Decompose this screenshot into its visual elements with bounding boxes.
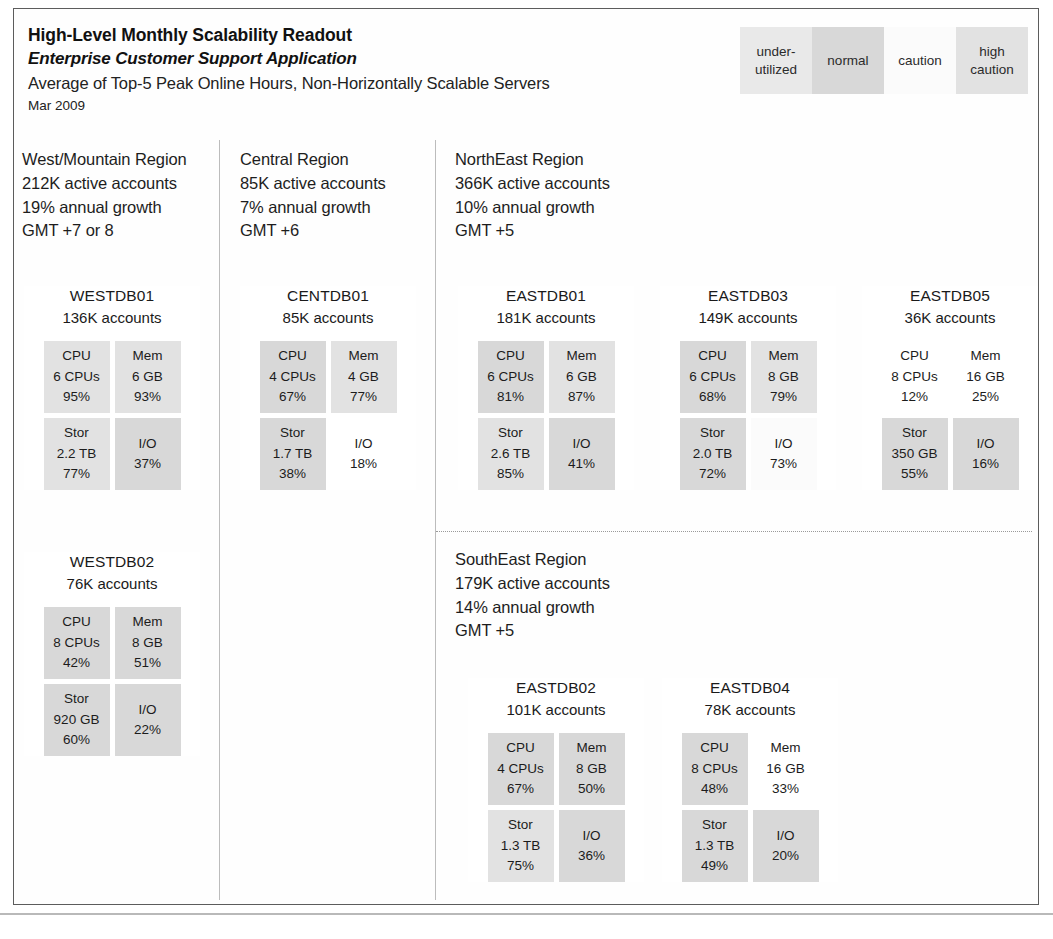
metric-cell-stor[interactable]: Stor920 GB60% xyxy=(44,684,110,756)
region-growth: 10% annual growth xyxy=(455,196,610,220)
legend-swatch-under-utilized: under-utilized xyxy=(740,27,812,94)
server-card-eastdb04[interactable]: EASTDB0478K accountsCPU8 CPUs48%Mem16 GB… xyxy=(662,678,838,882)
metric-cell-mem[interactable]: Mem8 GB79% xyxy=(751,341,817,413)
metric-cell-cpu[interactable]: CPU8 CPUs42% xyxy=(44,607,110,679)
metric-cell-cpu[interactable]: CPU8 CPUs48% xyxy=(682,733,748,805)
metric-percent: 41% xyxy=(568,454,595,475)
metric-capacity: 8 CPUs xyxy=(891,367,938,388)
metric-cell-io[interactable]: I/O22% xyxy=(115,684,181,756)
metric-cell-stor[interactable]: Stor1.3 TB75% xyxy=(488,810,554,882)
metric-label: Mem xyxy=(349,346,379,367)
metric-label: Mem xyxy=(133,346,163,367)
metric-cell-stor[interactable]: Stor350 GB55% xyxy=(882,418,948,490)
metric-cell-cpu[interactable]: CPU4 CPUs67% xyxy=(488,733,554,805)
metric-cell-mem[interactable]: Mem4 GB77% xyxy=(331,341,397,413)
metric-label: I/O xyxy=(572,434,590,455)
metric-cell-stor[interactable]: Stor1.7 TB38% xyxy=(260,418,326,490)
metric-cell-cpu[interactable]: CPU4 CPUs67% xyxy=(260,341,326,413)
metric-cell-mem[interactable]: Mem6 GB93% xyxy=(115,341,181,413)
metric-grid: CPU6 CPUs68%Mem8 GB79%Stor2.0 TB72%I/O73… xyxy=(660,341,836,490)
metric-cell-mem[interactable]: Mem16 GB25% xyxy=(953,341,1019,413)
legend-swatch-high-caution: high caution xyxy=(956,27,1028,94)
legend-label: under-utilized xyxy=(740,43,812,78)
metric-cell-mem[interactable]: Mem16 GB33% xyxy=(753,733,819,805)
metric-grid: CPU8 CPUs48%Mem16 GB33%Stor1.3 TB49%I/O2… xyxy=(662,733,838,882)
metric-cell-io[interactable]: I/O18% xyxy=(331,418,397,490)
metric-capacity: 6 CPUs xyxy=(689,367,736,388)
metric-capacity: 8 GB xyxy=(768,367,799,388)
legend-label: caution xyxy=(898,52,942,69)
metric-label: I/O xyxy=(774,434,792,455)
region-name: West/Mountain Region xyxy=(22,148,187,172)
region-name: SouthEast Region xyxy=(455,548,610,572)
metric-label: Mem xyxy=(133,612,163,633)
region-header-west: West/Mountain Region 212K active account… xyxy=(22,148,187,243)
metric-capacity: 6 GB xyxy=(566,367,597,388)
region-accounts: 212K active accounts xyxy=(22,172,187,196)
metric-label: Stor xyxy=(702,815,727,836)
page-title: High-Level Monthly Scalability Readout xyxy=(28,24,718,47)
metric-cell-stor[interactable]: Stor2.6 TB85% xyxy=(478,418,544,490)
metric-label: Mem xyxy=(971,346,1001,367)
metric-percent: 77% xyxy=(350,387,377,408)
report-subtitle: Enterprise Customer Support Application xyxy=(28,47,718,70)
page-bottom-rule xyxy=(0,913,1053,915)
metric-percent: 68% xyxy=(699,387,726,408)
server-name: WESTDB02 xyxy=(24,552,200,573)
metric-capacity: 350 GB xyxy=(892,444,938,465)
metric-cell-cpu[interactable]: CPU6 CPUs95% xyxy=(44,341,110,413)
metric-label: CPU xyxy=(506,738,535,759)
server-name: EASTDB02 xyxy=(468,678,644,699)
metric-label: I/O xyxy=(976,434,994,455)
metric-cell-io[interactable]: I/O20% xyxy=(753,810,819,882)
metric-capacity: 920 GB xyxy=(54,710,100,731)
metric-percent: 87% xyxy=(568,387,595,408)
metric-grid: CPU6 CPUs81%Mem6 GB87%Stor2.6 TB85%I/O41… xyxy=(458,341,634,490)
metric-label: Stor xyxy=(280,423,305,444)
server-name: EASTDB04 xyxy=(662,678,838,699)
metric-percent: 55% xyxy=(901,464,928,485)
metric-label: I/O xyxy=(354,434,372,455)
server-card-westdb02[interactable]: WESTDB0276K accountsCPU8 CPUs42%Mem8 GB5… xyxy=(24,552,200,756)
metric-cell-mem[interactable]: Mem6 GB87% xyxy=(549,341,615,413)
metric-label: Mem xyxy=(769,346,799,367)
metric-cell-cpu[interactable]: CPU8 CPUs12% xyxy=(882,341,948,413)
metric-capacity: 6 GB xyxy=(132,367,163,388)
server-accounts: 101K accounts xyxy=(468,700,644,720)
metric-cell-stor[interactable]: Stor2.2 TB77% xyxy=(44,418,110,490)
metric-cell-io[interactable]: I/O36% xyxy=(559,810,625,882)
metric-percent: 95% xyxy=(63,387,90,408)
metric-capacity: 16 GB xyxy=(966,367,1004,388)
metric-cell-stor[interactable]: Stor2.0 TB72% xyxy=(680,418,746,490)
metric-cell-mem[interactable]: Mem8 GB50% xyxy=(559,733,625,805)
region-growth: 19% annual growth xyxy=(22,196,187,220)
server-card-eastdb02[interactable]: EASTDB02101K accountsCPU4 CPUs67%Mem8 GB… xyxy=(468,678,644,882)
region-growth: 14% annual growth xyxy=(455,596,610,620)
metric-percent: 79% xyxy=(770,387,797,408)
metric-cell-io[interactable]: I/O73% xyxy=(751,418,817,490)
metric-cell-io[interactable]: I/O41% xyxy=(549,418,615,490)
server-card-eastdb03[interactable]: EASTDB03149K accountsCPU6 CPUs68%Mem8 GB… xyxy=(660,286,836,490)
metric-label: Stor xyxy=(902,423,927,444)
column-divider-west-central xyxy=(219,140,220,900)
server-accounts: 36K accounts xyxy=(862,308,1038,328)
metric-percent: 42% xyxy=(63,653,90,674)
metric-cell-mem[interactable]: Mem8 GB51% xyxy=(115,607,181,679)
metric-cell-cpu[interactable]: CPU6 CPUs68% xyxy=(680,341,746,413)
server-card-eastdb05[interactable]: EASTDB0536K accountsCPU8 CPUs12%Mem16 GB… xyxy=(862,286,1038,490)
metric-cell-stor[interactable]: Stor1.3 TB49% xyxy=(682,810,748,882)
metric-capacity: 2.0 TB xyxy=(693,444,733,465)
server-name: CENTDB01 xyxy=(240,286,416,307)
metric-cell-cpu[interactable]: CPU6 CPUs81% xyxy=(478,341,544,413)
metric-percent: 22% xyxy=(134,720,161,741)
metric-capacity: 6 CPUs xyxy=(53,367,100,388)
server-card-westdb01[interactable]: WESTDB01136K accountsCPU6 CPUs95%Mem6 GB… xyxy=(24,286,200,490)
server-name: WESTDB01 xyxy=(24,286,200,307)
metric-percent: 75% xyxy=(507,856,534,877)
server-card-eastdb01[interactable]: EASTDB01181K accountsCPU6 CPUs81%Mem6 GB… xyxy=(458,286,634,490)
metric-capacity: 8 CPUs xyxy=(691,759,738,780)
metric-cell-io[interactable]: I/O16% xyxy=(953,418,1019,490)
metric-percent: 16% xyxy=(972,454,999,475)
metric-cell-io[interactable]: I/O37% xyxy=(115,418,181,490)
server-card-centdb01[interactable]: CENTDB0185K accountsCPU4 CPUs67%Mem4 GB7… xyxy=(240,286,416,490)
